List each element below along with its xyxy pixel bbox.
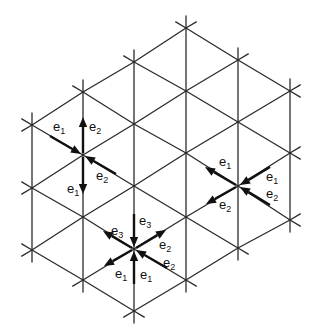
lattice-edge-stub <box>134 311 144 317</box>
lattice-edge <box>32 250 83 280</box>
vector-labels: e1e2e2e1e1e1e2e2e3e3e2e2e1e1 <box>53 119 278 284</box>
arrowhead-icon <box>130 251 138 261</box>
arrow-icon <box>205 167 236 185</box>
lattice-edge-stub <box>238 54 248 60</box>
lattice-edge <box>238 220 290 248</box>
lattice-edge <box>134 153 186 186</box>
lattice-edge <box>134 91 186 124</box>
arrow-shaft <box>50 136 72 149</box>
vector-label-e1: e1 <box>140 267 152 284</box>
vector-label-e2: e2 <box>219 197 231 214</box>
lattice-lines <box>22 16 301 323</box>
lattice-edge-stub <box>22 125 32 131</box>
lattice-edge <box>83 280 134 311</box>
lattice-edge-stub <box>22 182 32 188</box>
lattice-edge-stub <box>73 86 83 92</box>
lattice-edge <box>186 248 238 280</box>
lattice-edge <box>238 122 290 153</box>
arrow-shaft <box>214 172 236 185</box>
arrow-icon <box>130 251 138 284</box>
lattice-edge <box>134 124 186 153</box>
arrow-icon <box>104 250 132 266</box>
vector-label-e1: e1 <box>115 266 127 283</box>
lattice-edge-stub <box>124 56 134 62</box>
vector-label-e2: e2 <box>266 186 278 203</box>
lattice-edge-stub <box>290 214 300 220</box>
lattice-edge-stub <box>22 119 32 125</box>
lattice-edge <box>186 28 238 60</box>
lattice-edge-stub <box>186 22 196 28</box>
lattice-edge <box>83 186 134 217</box>
arrow-shaft <box>113 250 132 261</box>
lattice-edge-stub <box>290 91 300 97</box>
arrow-icon <box>79 157 87 194</box>
lattice-edge <box>83 62 134 92</box>
lattice-edge-stub <box>22 244 32 250</box>
lattice-edge-stub <box>186 280 196 286</box>
lattice-edge-stub <box>290 147 300 153</box>
lattice-edge <box>238 60 290 91</box>
arrowhead-icon <box>79 117 87 127</box>
vector-label-e3: e3 <box>111 223 123 240</box>
vector-label-e1: e1 <box>53 119 65 136</box>
vector-label-e2: e2 <box>89 119 101 136</box>
lattice-edge-stub <box>290 153 300 159</box>
lattice-edge <box>238 91 290 122</box>
lattice-edge-stub <box>176 22 186 28</box>
vector-label-e1: e1 <box>266 169 278 186</box>
lattice-edge-stub <box>238 248 248 254</box>
lattice-edge <box>32 155 83 188</box>
vector-label-e2: e2 <box>159 237 171 254</box>
lattice-edge-stub <box>22 188 32 194</box>
lattice-diagram: e1e2e2e1e1e1e2e2e3e3e2e2e1e1 <box>0 0 320 334</box>
lattice-edge <box>134 280 186 311</box>
lattice-edge-stub <box>73 280 83 286</box>
vector-label-e3: e3 <box>139 213 151 230</box>
vector-label-e2: e2 <box>96 168 108 185</box>
lattice-edge <box>186 217 238 248</box>
vector-label-e1: e1 <box>67 181 79 198</box>
lattice-edge <box>134 28 186 62</box>
lattice-edge <box>186 60 238 91</box>
lattice-edge <box>32 217 83 250</box>
vector-label-e1: e1 <box>219 154 231 171</box>
arrowhead-icon <box>79 184 87 194</box>
lattice-edge-stub <box>290 220 300 226</box>
triangular-lattice-figure: e1e2e2e1e1e1e2e2e3e3e2e2e1e1 <box>0 0 320 334</box>
lattice-edge <box>134 62 186 91</box>
arrow-icon <box>50 136 81 154</box>
vector-label-e2: e2 <box>163 255 175 272</box>
lattice-edge <box>186 91 238 122</box>
arrow-icon <box>130 214 138 247</box>
lattice-edge-stub <box>290 85 300 91</box>
lattice-edge-stub <box>22 250 32 256</box>
lattice-edge-stub <box>124 311 134 317</box>
arrow-shaft <box>136 235 157 248</box>
arrowhead-icon <box>130 237 138 247</box>
lattice-edge <box>186 122 238 153</box>
arrow-icon <box>79 117 87 153</box>
